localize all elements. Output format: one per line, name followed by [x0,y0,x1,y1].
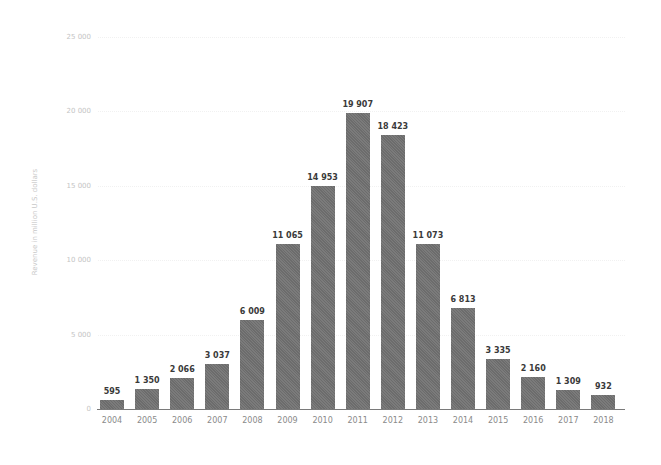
bar-2009[interactable] [276,244,300,409]
x-tick-label: 2010 [303,416,343,425]
x-tick-label: 2018 [583,416,623,425]
value-label: 14 953 [303,173,343,182]
x-tick-label: 2013 [408,416,448,425]
value-label: 932 [583,382,623,391]
x-tick-label: 2007 [197,416,237,425]
bar-2010[interactable] [311,186,335,409]
x-tick-label: 2014 [443,416,483,425]
x-tick-label: 2012 [373,416,413,425]
x-tick-label: 2016 [513,416,553,425]
y-axis-label: Revenue in million U.S. dollars [31,169,39,276]
bar-2005[interactable] [135,389,159,409]
x-tick-label: 2017 [548,416,588,425]
x-tick-label: 2006 [162,416,202,425]
value-label: 1 309 [548,377,588,386]
bar-2004[interactable] [100,400,124,409]
bar-2016[interactable] [521,377,545,409]
y-tick-label: 20 000 [67,107,92,115]
bar-2018[interactable] [591,395,615,409]
value-label: 1 350 [127,376,167,385]
bar-2012[interactable] [381,135,405,409]
x-tick-label: 2008 [232,416,272,425]
x-axis-line [97,409,625,410]
y-tick-label: 25 000 [67,33,92,41]
value-label: 595 [92,387,132,396]
bar-2017[interactable] [556,390,580,409]
bar-2007[interactable] [205,364,229,409]
y-tick-label: 5 000 [71,331,91,339]
value-label: 6 813 [443,295,483,304]
value-label: 11 065 [268,231,308,240]
x-tick-label: 2004 [92,416,132,425]
x-tick-label: 2015 [478,416,518,425]
x-tick-label: 2011 [338,416,378,425]
value-label: 2 160 [513,364,553,373]
bar-2006[interactable] [170,378,194,409]
gridline [98,37,625,38]
value-label: 11 073 [408,231,448,240]
x-tick-label: 2005 [127,416,167,425]
bar-2015[interactable] [486,359,510,409]
value-label: 19 907 [338,100,378,109]
bar-2014[interactable] [451,308,475,409]
y-tick-label: 10 000 [67,256,92,264]
y-tick-label: 0 [87,405,91,413]
bar-2011[interactable] [346,113,370,409]
value-label: 6 009 [232,307,272,316]
bar-chart: Revenue in million U.S. dollars 05 00010… [0,0,661,465]
value-label: 3 037 [197,351,237,360]
value-label: 3 335 [478,346,518,355]
y-tick-label: 15 000 [67,182,92,190]
value-label: 18 423 [373,122,413,131]
bar-2008[interactable] [240,320,264,409]
x-tick-label: 2009 [268,416,308,425]
bar-2013[interactable] [416,244,440,409]
value-label: 2 066 [162,365,202,374]
